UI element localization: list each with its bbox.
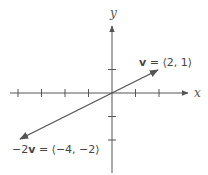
vector-v-label: v = ⟨2, 1⟩ xyxy=(139,56,192,69)
vector-neg2v-arrow xyxy=(20,93,112,139)
coordinate-plane: x y v = ⟨2, 1⟩ −2v = ⟨−4, −2⟩ xyxy=(0,0,208,175)
vector-neg2v-label: −2v = ⟨−4, −2⟩ xyxy=(12,143,100,156)
x-axis-label: x xyxy=(194,86,201,100)
y-axis-label: y xyxy=(109,6,117,20)
